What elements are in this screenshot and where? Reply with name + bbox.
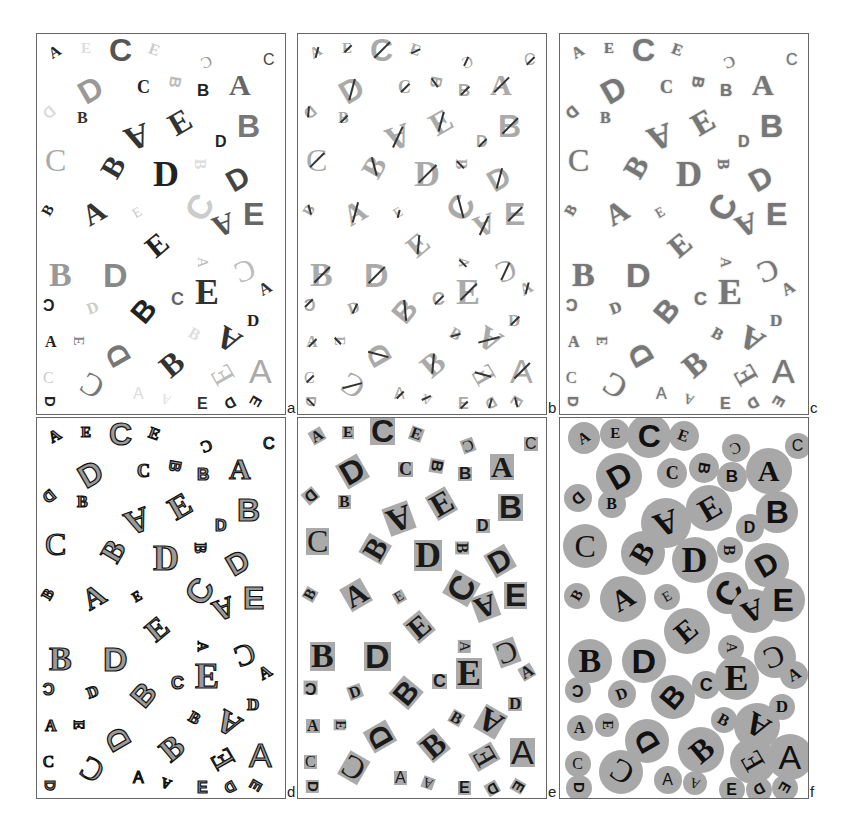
letter-glyph: E (686, 485, 732, 531)
letter-glyph: B (237, 494, 260, 526)
letter-glyph: B (598, 490, 626, 518)
letter-glyph: B (161, 732, 182, 764)
letter-glyph: E (410, 426, 423, 442)
letter-glyph: C (370, 418, 395, 445)
letter-glyph: A (490, 70, 512, 100)
letter-glyph: A (772, 354, 795, 388)
letter-text: D (632, 644, 657, 678)
letter-text: E (391, 205, 405, 221)
letter-glyph: D (215, 134, 227, 150)
letter-text: E (130, 205, 144, 221)
letter-glyph: C (398, 462, 413, 478)
letter-glyph: A (310, 44, 322, 60)
letter-text: B (166, 75, 184, 89)
letter-glyph: A (600, 576, 646, 622)
letter-text: E (456, 274, 480, 310)
letter-text: E (610, 426, 620, 441)
panel-label-c: c (810, 399, 818, 416)
letter-glyph: A (197, 254, 208, 270)
letter-glyph: A (752, 70, 774, 100)
letter-text: E (140, 227, 175, 263)
letter-text: E (458, 396, 469, 412)
letter-glyph: E (458, 780, 471, 796)
letter-glyph: B (689, 453, 719, 483)
letter-text: A (306, 719, 320, 733)
letter-text: A (456, 257, 471, 268)
letter-glyph: E (334, 332, 343, 348)
letter-text: E (423, 103, 457, 141)
letter-text: C (568, 144, 589, 176)
letter-text: A (209, 591, 240, 627)
panel-label-b: b (548, 399, 556, 416)
letter-glyph: D (476, 518, 490, 534)
letter-glyph: B (626, 152, 646, 182)
letter-glyph: D (45, 394, 56, 410)
letter-text: D (153, 156, 179, 192)
letter-text: E (458, 781, 471, 795)
letter-text: B (39, 586, 57, 602)
letter-text: D (153, 540, 179, 576)
letter-glyph: E (772, 775, 798, 800)
letter-glyph: C (342, 370, 363, 402)
letter-glyph: D (368, 340, 390, 370)
letter-glyph: E (342, 40, 352, 56)
letter-glyph: E (73, 716, 82, 732)
letter-glyph: D (566, 775, 592, 800)
letter-glyph: B (195, 156, 206, 172)
letter-text: E (162, 103, 196, 141)
letter-glyph: C (566, 370, 577, 386)
letter-glyph: A (133, 386, 144, 402)
letter-glyph: E (149, 426, 160, 442)
letter-text: B (192, 159, 208, 170)
letter-glyph: C (171, 290, 184, 308)
letter-text: D (300, 102, 319, 122)
letter-glyph: D (488, 164, 510, 194)
panel-a: AECECCDCBBADBAEBDCBDBDBAECAEEBDACEACDBCD… (36, 33, 286, 415)
letter-glyph: C (565, 751, 591, 777)
letter-glyph: A (49, 44, 61, 60)
letter-text: E (342, 41, 352, 56)
letter-glyph: B (49, 642, 72, 676)
letter-text: E (600, 720, 614, 729)
letter-glyph: C (109, 418, 132, 450)
letter-glyph: E (133, 204, 142, 220)
letter-text: D (73, 70, 109, 109)
letter-text: D (572, 782, 587, 793)
letter-text: B (447, 709, 465, 727)
letter-glyph: D (414, 156, 440, 192)
letter-text: E (504, 198, 525, 230)
letter-glyph: D (79, 458, 102, 490)
letter-glyph: C (627, 417, 671, 458)
letter-text: B (166, 459, 184, 473)
letter-glyph: E (669, 421, 699, 451)
letter-glyph: C (496, 640, 518, 666)
letter-text: C (199, 53, 215, 72)
letter-glyph: A (422, 390, 432, 406)
letter-glyph: A (310, 428, 324, 444)
panel-d: AECECCDCBBADBAEBDCBDBDBAECAEEBDACEACDBCD… (36, 417, 286, 799)
letter-text: A (682, 391, 696, 408)
letter-glyph: B (43, 202, 53, 218)
letter-text: B (153, 345, 190, 383)
letter-glyph: D (568, 394, 579, 410)
letter-text: D (744, 520, 756, 536)
letter-text: C (638, 420, 661, 452)
panel-label-f: f (810, 783, 814, 800)
letter-text: A (209, 207, 240, 243)
letter-text: E (247, 777, 265, 793)
letter-text: C (398, 462, 413, 477)
letter-glyph: A (213, 594, 235, 624)
letter-text: E (670, 41, 686, 60)
letter-glyph: E (474, 744, 494, 770)
letter-text: B (77, 494, 88, 510)
letter-text: C (109, 34, 132, 66)
letter-text: A (600, 195, 634, 232)
letter-glyph: A (606, 198, 628, 228)
letter-text: A (458, 640, 471, 653)
letter-glyph: C (45, 528, 66, 560)
letter-glyph: E (456, 658, 482, 689)
letter-text: A (470, 207, 501, 243)
letter-glyph: B (422, 348, 443, 380)
letter-text: B (77, 110, 88, 126)
letter-text: A (229, 70, 251, 100)
